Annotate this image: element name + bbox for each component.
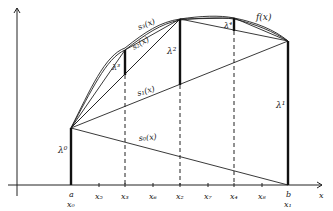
axes bbox=[8, 8, 322, 196]
svg-text:x₂: x₂ bbox=[176, 192, 184, 201]
x-axis-label: x bbox=[319, 191, 324, 200]
svg-text:b: b bbox=[286, 190, 291, 199]
svg-text:x₆: x₆ bbox=[149, 192, 158, 201]
piecewise-linear-approximation-diagram: λ⁰ λ¹ λ² λ³ λ⁴ f(x) s₃(x) s₂(x) s₁(x) s₀… bbox=[0, 0, 333, 211]
svg-text:x₄: x₄ bbox=[230, 192, 238, 201]
s0-label: s₀(x) bbox=[138, 132, 157, 143]
lambda3-label: λ³ bbox=[111, 63, 120, 72]
lambda4-label: λ⁴ bbox=[223, 21, 232, 30]
svg-text:x₁: x₁ bbox=[284, 200, 292, 209]
svg-text:x₀: x₀ bbox=[67, 200, 76, 209]
tick-labels: a x₀ x₅ x₃ x₆ x₂ x₇ x₄ x₈ b x₁ x bbox=[67, 190, 324, 209]
lambda0-label: λ⁰ bbox=[57, 145, 68, 155]
s1-label: s₁(x) bbox=[136, 84, 156, 98]
svg-text:x₃: x₃ bbox=[121, 192, 129, 201]
lambda2-label: λ² bbox=[166, 46, 177, 56]
fx-label: f(x) bbox=[255, 12, 272, 22]
s3-label: s₃(x) bbox=[136, 17, 156, 32]
svg-text:x₈: x₈ bbox=[258, 192, 267, 201]
svg-text:x₅: x₅ bbox=[95, 192, 104, 201]
svg-text:x₇: x₇ bbox=[204, 192, 213, 201]
lambda1-label: λ¹ bbox=[275, 100, 285, 110]
svg-text:a: a bbox=[69, 190, 74, 199]
